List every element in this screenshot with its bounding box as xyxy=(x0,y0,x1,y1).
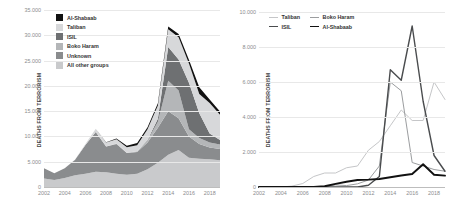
gridline xyxy=(259,117,445,118)
x-axis-tick-label: 2018 xyxy=(204,190,216,196)
y-axis-tick-label: 6.000 xyxy=(243,79,257,85)
legend-swatch-icon xyxy=(56,33,63,40)
gridline xyxy=(259,12,445,13)
legend-item-label: Boko Haram xyxy=(67,43,99,49)
legend-item-label: Unknown xyxy=(67,53,91,59)
right-legend: TalibanBoko HaramISILAl-Shabaab xyxy=(269,14,354,30)
left-legend: Al-ShabaabTalibanISILBoko HaramUnknownAl… xyxy=(56,14,109,69)
x-axis-tick-label: 2012 xyxy=(362,190,374,196)
legend-line-icon xyxy=(310,17,319,18)
legend-line-icon xyxy=(269,17,278,18)
legend-swatch-icon xyxy=(56,14,63,21)
y-axis-tick-label: 5.000 xyxy=(28,159,42,165)
gridline xyxy=(259,152,445,153)
gridline xyxy=(44,111,220,112)
legend-item[interactable]: Unknown xyxy=(56,52,109,59)
gridline xyxy=(44,86,220,87)
y-axis-tick-label: 10.000 xyxy=(25,133,42,139)
legend-item-label: All other groups xyxy=(67,62,109,68)
y-axis-tick-label: 20.000 xyxy=(25,83,42,89)
gridline xyxy=(259,82,445,83)
legend-item-label: Al-Shabaab xyxy=(67,15,97,21)
legend-item[interactable]: Taliban xyxy=(269,14,300,20)
x-axis-tick-label: 2004 xyxy=(275,190,287,196)
x-axis-tick-label: 2002 xyxy=(38,190,50,196)
x-axis-tick-label: 2018 xyxy=(428,190,440,196)
line-series-al-shabaab xyxy=(259,164,445,187)
legend-line-icon xyxy=(269,26,278,27)
legend-item[interactable]: Boko Haram xyxy=(56,43,109,50)
line-series-isil xyxy=(259,26,445,187)
panel-stacked-area: DEATHS FROM TERRORISM 05.00010.00015.000… xyxy=(0,0,227,220)
y-axis-tick-label: 4.000 xyxy=(243,114,257,120)
x-axis-tick-label: 2002 xyxy=(253,190,265,196)
y-axis-tick-label: 10.000 xyxy=(240,9,257,15)
legend-item-label: Boko Haram xyxy=(322,14,354,20)
y-axis-tick-label: 8.000 xyxy=(243,44,257,50)
gridline xyxy=(259,47,445,48)
x-axis-tick-label: 2006 xyxy=(79,190,91,196)
x-axis-tick-label: 2014 xyxy=(162,190,174,196)
legend-item[interactable]: Taliban xyxy=(56,24,109,31)
legend-swatch-icon xyxy=(56,24,63,31)
gridline xyxy=(44,162,220,163)
x-axis-tick-label: 2004 xyxy=(59,190,71,196)
line-series-taliban xyxy=(259,82,445,187)
legend-item[interactable]: Boko Haram xyxy=(310,14,354,20)
legend-item[interactable]: Al-Shabaab xyxy=(56,14,109,21)
x-axis-tick-label: 2016 xyxy=(183,190,195,196)
x-axis-tick-label: 2010 xyxy=(121,190,133,196)
x-axis-tick-label: 2014 xyxy=(384,190,396,196)
legend-item-label: Taliban xyxy=(282,14,300,20)
y-axis-tick-label: 25.000 xyxy=(25,58,42,64)
panel-line-chart: DEATHS FROM TERRORISM 02.0004.0006.0008.… xyxy=(227,0,454,220)
right-plot-area: 02.0004.0006.0008.00010.0002002200420062… xyxy=(259,12,445,187)
legend-item[interactable]: ISIL xyxy=(269,24,300,30)
y-axis-tick-label: 15.000 xyxy=(25,108,42,114)
figure-two-panel-terrorism-deaths: DEATHS FROM TERRORISM 05.00010.00015.000… xyxy=(0,0,454,220)
gridline xyxy=(44,136,220,137)
right-series-layer xyxy=(259,12,445,187)
y-axis-tick-label: 35.000 xyxy=(25,7,42,13)
x-axis-tick-label: 2010 xyxy=(341,190,353,196)
gridline xyxy=(44,187,220,188)
legend-item-label: Al-Shabaab xyxy=(322,24,352,30)
y-axis-tick-label: 30.000 xyxy=(25,32,42,38)
legend-swatch-icon xyxy=(56,52,63,59)
legend-swatch-icon xyxy=(56,43,63,50)
legend-item-label: Taliban xyxy=(67,24,85,30)
legend-item[interactable]: All other groups xyxy=(56,62,109,69)
legend-item-label: ISIL xyxy=(282,24,292,30)
gridline xyxy=(44,10,220,11)
legend-item-label: ISIL xyxy=(67,34,77,40)
x-axis-tick-label: 2008 xyxy=(100,190,112,196)
line-series-boko-haram xyxy=(259,82,445,187)
x-axis-tick-label: 2012 xyxy=(142,190,154,196)
legend-item[interactable]: ISIL xyxy=(56,33,109,40)
gridline xyxy=(259,187,445,188)
y-axis-tick-label: 2.000 xyxy=(243,149,257,155)
legend-line-icon xyxy=(310,26,319,27)
legend-swatch-icon xyxy=(56,62,63,69)
x-axis-tick-label: 2008 xyxy=(319,190,331,196)
legend-item[interactable]: Al-Shabaab xyxy=(310,24,354,30)
x-axis-tick-label: 2016 xyxy=(406,190,418,196)
x-axis-tick-label: 2006 xyxy=(297,190,309,196)
